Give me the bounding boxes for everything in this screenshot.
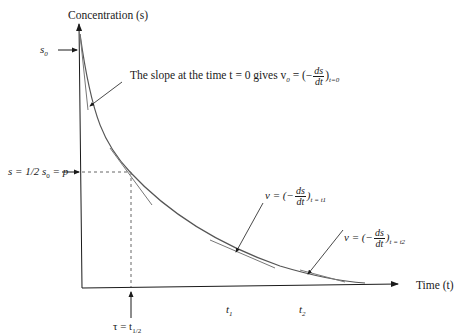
x-axis [82, 284, 398, 288]
annotation-v1: v = (−dsdt)t = t1 [265, 186, 326, 207]
t1-label: t1 [226, 304, 233, 318]
x-axis-label: Time (t) [416, 280, 454, 292]
annotation-v0: The slope at the time t = 0 gives v0 = (… [130, 66, 339, 87]
v1-leader [236, 203, 263, 252]
tangent-t2 [300, 270, 345, 282]
tau-label: τ = t1/2 [113, 321, 141, 335]
s0-label: s0 [40, 44, 48, 58]
half-concentration-label: s = 1/2 s0 = p [8, 166, 68, 180]
v0-leader [90, 82, 122, 106]
y-axis [79, 24, 82, 288]
tangent-t0 [80, 34, 88, 110]
t2-label: t2 [299, 304, 306, 318]
y-axis-label: Concentration (s) [68, 10, 148, 22]
tangent-t1 [210, 240, 275, 268]
diagram-canvas [0, 0, 459, 336]
annotation-v2: v = (−dsdt)t = t2 [344, 228, 405, 249]
v2-leader [308, 230, 343, 274]
